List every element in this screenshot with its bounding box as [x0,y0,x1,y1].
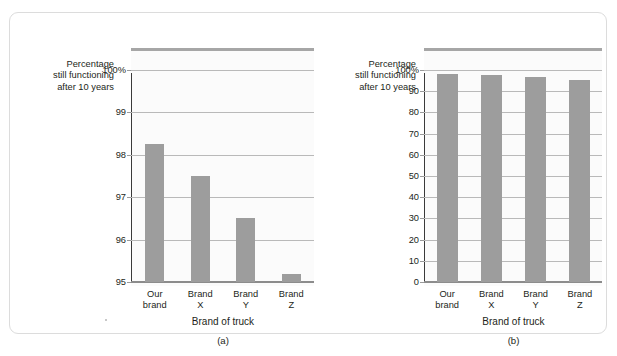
bar [525,77,546,282]
x-axis-label-line: brand [435,300,459,310]
x-axis-label: Brand Y [224,289,268,311]
plot-inner-b: 0102030405060708090100% [424,70,602,282]
x-axis-label: Brand Z [558,289,602,311]
y-axis-tick-label: 95 [116,277,126,287]
y-axis-tick-label: 40 [409,192,419,202]
x-axis-label-line: X [488,300,494,310]
y-axis-tick-label: 97 [116,192,126,202]
y-axis-tick-label: 0 [414,277,419,287]
bar [145,144,164,282]
y-axis-tick-mark [420,70,424,71]
y-axis-tick-mark [420,112,424,113]
bar [569,80,590,282]
figure-frame: Percentage still functioning after 10 ye… [9,12,607,334]
y-axis-tick-label: 96 [116,235,126,245]
y-axis-tick-label: 50 [409,171,419,181]
y-axis-caption-line: Percentage [24,59,114,70]
y-axis-tick-mark [420,197,424,198]
y-axis-caption-line: still functioning [24,70,114,81]
y-axis-tick-mark [420,176,424,177]
x-axis-labels-b: Our brand Brand X Brand Y Brand Z [425,289,602,311]
panel-caption-b: (b) [425,335,602,346]
x-axis-label-line: brand [143,300,167,310]
x-axis-label-line: Our [439,289,455,299]
x-axis-title-b: Brand of truck [425,316,602,327]
x-axis-label-line: Z [288,300,294,310]
x-axis-label: Our brand [133,289,177,311]
x-axis-label-line: Y [243,300,249,310]
plot-top-rule-a [131,48,314,51]
x-axis-label: Our brand [425,289,469,311]
x-axis-labels-a: Our brand Brand X Brand Y Brand Z [132,289,314,311]
y-axis-tick-mark [420,240,424,241]
plot-inner-a: 9596979899100% [131,70,314,282]
plot-area-b: 0102030405060708090100% [424,48,602,286]
x-axis-label-line: Our [147,289,163,299]
y-axis-caption-line: after 10 years [24,82,114,93]
x-axis-label: Brand X [178,289,222,311]
y-axis-tick-mark [127,112,131,113]
bar-series-b [425,70,602,282]
bar [191,176,210,282]
panel-caption-a: (a) [132,335,314,346]
y-axis-tick-mark [127,197,131,198]
y-axis-tick-mark [420,218,424,219]
stray-mark [105,319,107,321]
chart-panel-b: Percentage still functioning after 10 ye… [309,13,608,335]
y-axis-tick-label: 80 [409,107,419,117]
y-axis-tick-mark [420,155,424,156]
x-axis-label: Brand Y [514,289,558,311]
y-axis-caption-line: after 10 years [320,82,416,93]
y-axis-tick-label: 70 [409,129,419,139]
x-axis-label-line: Brand [188,289,213,299]
y-axis-tick-label: 100% [102,65,126,75]
y-axis-tick-label: 60 [409,150,419,160]
bar [437,74,458,282]
y-axis-tick-mark [127,240,131,241]
x-axis-label-line: Brand [233,289,258,299]
x-axis-label-line: Y [533,300,539,310]
y-axis-tick-mark [420,261,424,262]
plot-area-a: 9596979899100% [131,48,314,286]
y-axis-tick-label: 90 [409,86,419,96]
y-axis-tick-label: 99 [116,107,126,117]
x-axis-title-a: Brand of truck [132,316,314,327]
y-axis-tick-mark [420,91,424,92]
y-axis-caption-a: Percentage still functioning after 10 ye… [24,59,114,93]
x-axis-label-line: Z [577,300,583,310]
bar [236,218,255,282]
bar [282,274,301,282]
x-axis-label-line: Brand [279,289,304,299]
chart-panel-a: Percentage still functioning after 10 ye… [10,13,309,335]
y-axis-tick-label: 10 [409,256,419,266]
y-axis-tick-label: 100% [395,65,419,75]
x-axis-label-line: Brand [479,289,504,299]
y-axis-tick-label: 30 [409,213,419,223]
x-axis-label-line: X [197,300,203,310]
bar [481,75,502,282]
y-axis-tick-mark [420,134,424,135]
y-axis-tick-mark [127,70,131,71]
x-axis-label: Brand X [469,289,513,311]
y-axis-tick-label: 20 [409,235,419,245]
x-axis-label-line: Brand [523,289,548,299]
x-axis-label-line: Brand [567,289,592,299]
y-axis-tick-mark [127,155,131,156]
x-axis-label: Brand Z [269,289,313,311]
y-axis-tick-label: 98 [116,150,126,160]
bar-series-a [132,70,314,282]
plot-top-rule-b [424,48,602,51]
